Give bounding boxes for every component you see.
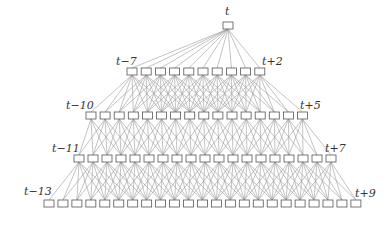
node-box: [116, 155, 126, 162]
label-row2-left: t−10: [66, 100, 94, 111]
edge: [163, 119, 190, 155]
node-box: [200, 155, 210, 162]
edge: [289, 119, 303, 155]
edge: [121, 119, 133, 155]
edge: [135, 119, 147, 155]
edge: [63, 162, 79, 200]
edge: [233, 119, 246, 155]
edge: [275, 119, 288, 155]
node-box: [114, 112, 124, 119]
label-row4-left: t−13: [24, 186, 52, 197]
edge: [219, 119, 232, 155]
node-box: [281, 200, 291, 207]
network-graph: [0, 0, 392, 225]
edge: [205, 119, 218, 155]
edge: [119, 162, 149, 200]
edge: [260, 75, 289, 112]
edge: [147, 162, 177, 200]
node-box: [86, 200, 96, 207]
node-box: [326, 155, 336, 162]
edge: [79, 119, 91, 155]
node-box: [312, 155, 322, 162]
node-box: [270, 155, 280, 162]
edge: [77, 162, 107, 200]
edge: [160, 29, 228, 68]
node-box: [128, 112, 138, 119]
node-box: [157, 112, 167, 119]
label-row4-right: t+9: [355, 188, 376, 199]
edge: [228, 29, 260, 68]
edge: [63, 162, 93, 200]
node-box: [130, 155, 140, 162]
node-box: [86, 112, 96, 119]
edge: [175, 29, 228, 68]
node-box: [323, 200, 333, 207]
node-box: [283, 112, 293, 119]
node-box: [172, 155, 182, 162]
edge: [303, 119, 318, 155]
edge: [79, 119, 105, 155]
edge: [149, 119, 162, 155]
edge: [132, 29, 228, 68]
node-box: [199, 112, 209, 119]
node-box: [44, 200, 54, 207]
edge: [163, 119, 176, 155]
node-box: [156, 200, 166, 207]
edge: [121, 119, 147, 155]
edge: [93, 119, 105, 155]
edge: [93, 119, 119, 155]
edge: [49, 162, 79, 200]
node-box: [171, 112, 181, 119]
node-box: [114, 200, 124, 207]
dilated-convolution-diagram: t t−7 t+2 t−10 t+5 t−11 t+7 t−13 t+9: [0, 0, 392, 225]
label-row1-left: t−7: [116, 56, 137, 67]
edge: [147, 75, 174, 112]
node-box: [295, 200, 305, 207]
node-box: [351, 200, 361, 207]
node-box: [144, 155, 154, 162]
node-box: [256, 155, 266, 162]
edge: [261, 119, 274, 155]
node-box: [225, 200, 235, 207]
node-box: [214, 155, 224, 162]
node-box: [241, 112, 251, 119]
edge: [331, 162, 356, 200]
edge: [91, 162, 121, 200]
edge: [191, 119, 218, 155]
node-box: [100, 112, 110, 119]
node-box: [226, 68, 236, 75]
node-box: [227, 112, 237, 119]
node-box: [213, 112, 223, 119]
node-box: [267, 200, 277, 207]
node-box: [239, 200, 249, 207]
edge: [177, 119, 190, 155]
label-row3-right: t+7: [325, 143, 346, 154]
node-box: [142, 200, 152, 207]
node-box: [253, 200, 263, 207]
edge: [105, 162, 135, 200]
node-box: [184, 200, 194, 207]
node-box: [211, 200, 221, 207]
edge: [191, 119, 204, 155]
node-box: [170, 68, 180, 75]
node-box: [241, 68, 251, 75]
node-box: [223, 22, 233, 29]
node-box: [309, 200, 319, 207]
edge: [133, 75, 160, 112]
edge: [107, 119, 119, 155]
node-box: [284, 155, 294, 162]
edge: [303, 119, 304, 155]
node-box: [186, 155, 196, 162]
node-box: [142, 112, 152, 119]
node-box: [155, 68, 165, 75]
node-box: [197, 200, 207, 207]
node-box: [170, 200, 180, 207]
node-box: [255, 68, 265, 75]
node-box: [337, 200, 347, 207]
edge: [260, 75, 303, 112]
label-top: t: [225, 6, 229, 17]
edge: [119, 75, 146, 112]
edge: [205, 119, 232, 155]
edge: [133, 162, 163, 200]
edge: [105, 75, 132, 112]
